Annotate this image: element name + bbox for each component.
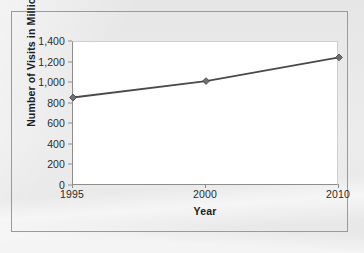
y-axis-tick-label: 800	[47, 97, 65, 109]
data-point-marker	[336, 54, 343, 61]
x-axis-tick-mark	[205, 184, 206, 188]
y-axis-tick-label: 600	[47, 117, 65, 129]
data-series-line	[73, 42, 339, 186]
y-axis-tick-label: 200	[47, 158, 65, 170]
x-axis-tick-label: 2010	[326, 188, 350, 200]
line-chart: Number of Visits in Millions 02004006008…	[12, 12, 347, 231]
x-axis-tick-labels: 199520002010	[72, 188, 338, 204]
x-axis-tick-label: 1995	[60, 188, 84, 200]
y-axis-tick-label: 400	[47, 138, 65, 150]
y-axis-tick-label: 1,400	[38, 35, 65, 47]
x-axis-tick-mark	[338, 184, 339, 188]
y-axis-tick-label: 1,200	[38, 56, 65, 68]
y-axis-tick-label: 1,000	[38, 76, 65, 88]
data-point-marker	[70, 94, 77, 101]
x-axis-title: Year	[72, 205, 338, 217]
data-point-marker	[203, 78, 210, 85]
chart-frame: Number of Visits in Millions 02004006008…	[11, 11, 348, 232]
x-axis-tick-label: 2000	[193, 188, 217, 200]
x-axis-tick-mark	[72, 184, 73, 188]
plot-area	[72, 41, 338, 185]
y-axis-tick-labels: 02004006008001,0001,2001,400	[12, 41, 65, 185]
